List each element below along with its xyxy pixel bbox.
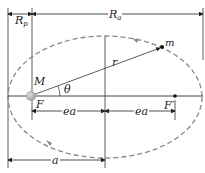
label-a: a bbox=[51, 155, 60, 166]
central-body-M bbox=[26, 91, 36, 101]
orbit-direction-arrow-bottom bbox=[46, 140, 52, 146]
label-rp: Rp bbox=[15, 15, 28, 28]
satellite-m bbox=[160, 45, 164, 49]
label-m: m bbox=[165, 38, 174, 48]
label-ra: Ra bbox=[108, 9, 122, 22]
theta-arc bbox=[58, 86, 60, 96]
label-ea-left: ea bbox=[62, 106, 77, 117]
label-F: F bbox=[36, 99, 44, 110]
orbit-diagram: Rp Ra M F θ r m F′ ea ea a bbox=[0, 0, 205, 173]
label-M: M bbox=[34, 76, 45, 87]
orbit-direction-arrow-top bbox=[132, 38, 138, 43]
label-ea-right: ea bbox=[134, 106, 149, 117]
label-r: r bbox=[112, 57, 117, 68]
label-F-prime: F′ bbox=[164, 100, 174, 111]
radius-vector bbox=[33, 48, 160, 95]
label-theta: θ bbox=[64, 84, 71, 95]
focus-F-prime bbox=[173, 94, 177, 98]
diagram-graphics bbox=[0, 0, 205, 173]
